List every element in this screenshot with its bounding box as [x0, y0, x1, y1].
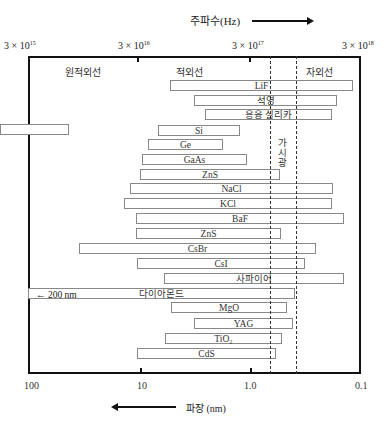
- tick-mark: [249, 56, 251, 62]
- diamond-200nm-annotation: ← 200 nm: [36, 290, 77, 300]
- region-label-far-ir: 원적외선: [65, 64, 101, 79]
- tick-mark: [137, 56, 139, 62]
- material-bar: ZnS: [136, 228, 281, 239]
- material-bar: [0, 124, 69, 135]
- top-tick-label: 3 × 1017: [232, 40, 264, 51]
- bottom-tick-label: 100: [24, 380, 39, 391]
- material-bar: Si: [158, 125, 240, 136]
- tick-mark: [250, 368, 252, 374]
- bottom-tick-label: 0.1: [355, 380, 368, 391]
- visible-band-label: 가시광: [274, 138, 288, 168]
- material-bar: LiF: [170, 80, 353, 91]
- region-label-uv: 자외선: [306, 64, 333, 79]
- material-bar: KCl: [124, 198, 332, 209]
- top-tick-label: 3 × 1018: [342, 40, 374, 51]
- region-label-ir: 적외선: [176, 64, 203, 79]
- arrow-right-icon: [252, 20, 310, 22]
- material-bar: Ge: [148, 139, 223, 150]
- material-bar: YAG: [194, 318, 293, 329]
- visible-boundary-line: [270, 56, 271, 374]
- wavelength-axis-title: 파장 (nm): [186, 400, 226, 415]
- material-bar: CsI: [137, 258, 305, 269]
- bottom-tick-label: 10: [137, 380, 147, 391]
- bottom-tick-label: 1.0: [244, 380, 257, 391]
- material-bar: NaCl: [130, 183, 333, 194]
- material-bar: GaAs: [142, 154, 247, 165]
- material-bar: CdS: [137, 348, 276, 359]
- material-bar: 석영: [194, 95, 337, 106]
- material-bar: BaF: [136, 213, 344, 224]
- frequency-label: 주파수(Hz): [190, 12, 240, 28]
- material-bar: 용융 실리카: [205, 109, 332, 120]
- material-bar: TiO₂: [165, 333, 282, 344]
- material-bar: ZnS: [140, 169, 280, 180]
- arrow-left-icon: [116, 406, 176, 408]
- top-tick-label: 3 × 1016: [118, 40, 150, 51]
- visible-boundary-line: [296, 56, 297, 374]
- material-bar: CsBr: [79, 243, 316, 254]
- tick-mark: [140, 368, 142, 374]
- top-tick-label: 3 × 1015: [4, 40, 36, 51]
- material-bar: 사파이어: [164, 273, 344, 284]
